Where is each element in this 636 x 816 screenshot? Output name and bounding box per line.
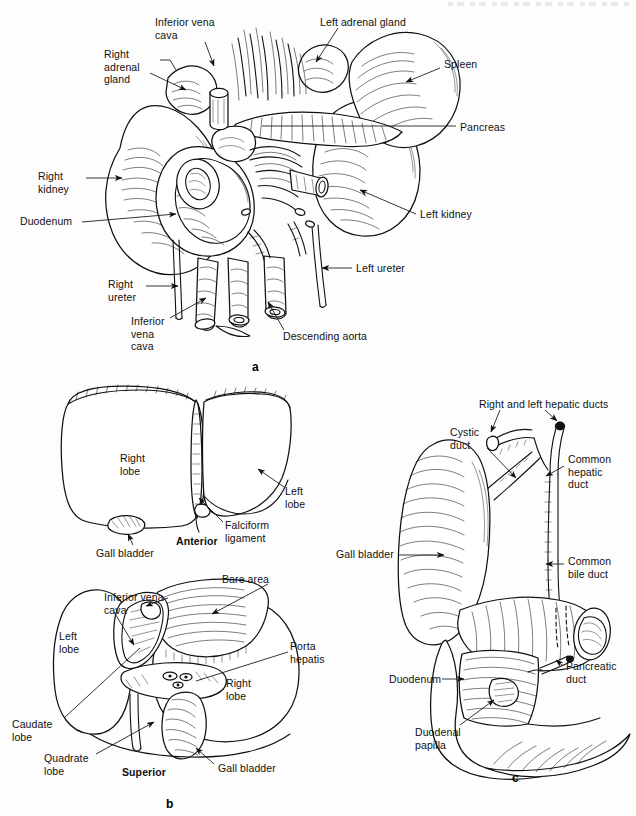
label-left-lobe-anterior: Left lobe: [285, 485, 305, 510]
label-common-hepatic-duct: Common hepatic duct: [568, 453, 611, 491]
label-common-bile-duct: Common bile duct: [568, 555, 611, 580]
label-left-adrenal-gland: Left adrenal gland: [320, 16, 406, 29]
label-descending-aorta: Descending aorta: [283, 330, 367, 343]
label-pancreas: Pancreas: [460, 121, 505, 134]
panel-b-superior-artwork: [54, 579, 299, 764]
label-duodenum: Duodenum: [20, 215, 72, 228]
label-right-kidney: Right kidney: [38, 170, 69, 195]
label-inferior-vena-cava-bottom: Inferior vena cava: [131, 315, 164, 353]
label-left-ureter: Left ureter: [356, 262, 405, 275]
label-inferior-vena-cava-top: Inferior vena cava: [155, 16, 215, 41]
panel-letter-b: b: [166, 797, 173, 811]
label-spleen: Spleen: [444, 58, 477, 71]
label-gall-bladder-anterior: Gall bladder: [96, 547, 154, 560]
label-duodenum-c: Duodenum: [389, 673, 441, 686]
label-gall-bladder-c: Gall bladder: [336, 548, 394, 561]
label-quadrate-lobe: Quadrate lobe: [44, 752, 89, 777]
page-header-remnant: [448, 2, 632, 6]
label-falciform-ligament: Falciform ligament: [225, 519, 269, 544]
label-cystic-duct: Cystic duct: [450, 426, 479, 451]
panel-letter-a: a: [252, 360, 259, 374]
panel-b-superior-leaders: [64, 584, 288, 764]
label-right-lobe-superior: Right lobe: [226, 677, 251, 702]
label-left-lobe-superior: Left lobe: [59, 630, 79, 655]
label-left-kidney: Left kidney: [420, 208, 472, 221]
label-bare-area: Bare area: [222, 573, 269, 586]
label-pancreatic-duct: Pancreatic duct: [566, 660, 617, 685]
label-right-ureter: Right ureter: [108, 278, 136, 303]
label-porta-hepatis: Porta hepatis: [290, 640, 325, 665]
label-right-adrenal-gland: Right adrenal gland: [104, 48, 140, 86]
label-duodenal-papilla: Duodenal papilla: [415, 726, 461, 751]
label-superior-view-caption: Superior: [122, 766, 166, 779]
panel-letter-c: c: [512, 771, 519, 785]
label-inferior-vena-cava-superior: Inferior vena cava: [104, 591, 164, 616]
label-anterior-view-caption: Anterior: [176, 535, 218, 548]
label-caudate-lobe: Caudate lobe: [12, 718, 52, 743]
label-right-lobe-anterior: Right lobe: [120, 452, 145, 477]
label-right-and-left-hepatic-ducts: Right and left hepatic ducts: [479, 398, 608, 411]
label-gall-bladder-superior: Gall bladder: [218, 762, 276, 775]
anatomy-plate: .o { fill:#fff; stroke:#101010; stroke-w…: [0, 0, 636, 816]
